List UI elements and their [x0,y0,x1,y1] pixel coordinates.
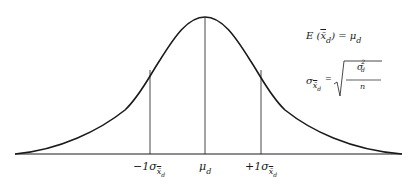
std-error-numerator: σ2d [357,62,371,72]
mean-label: μd [199,160,211,173]
std-error-lhs: σx̄d [306,75,321,86]
std-error-denominator: n [360,82,365,91]
minus-one-sigma-label: −1σx̄d [133,160,165,173]
std-error-equals: = [325,74,332,83]
expectation-formula: E (x̄d) = μd [306,30,361,41]
plus-one-sigma-label: +1σx̄d [245,160,277,173]
